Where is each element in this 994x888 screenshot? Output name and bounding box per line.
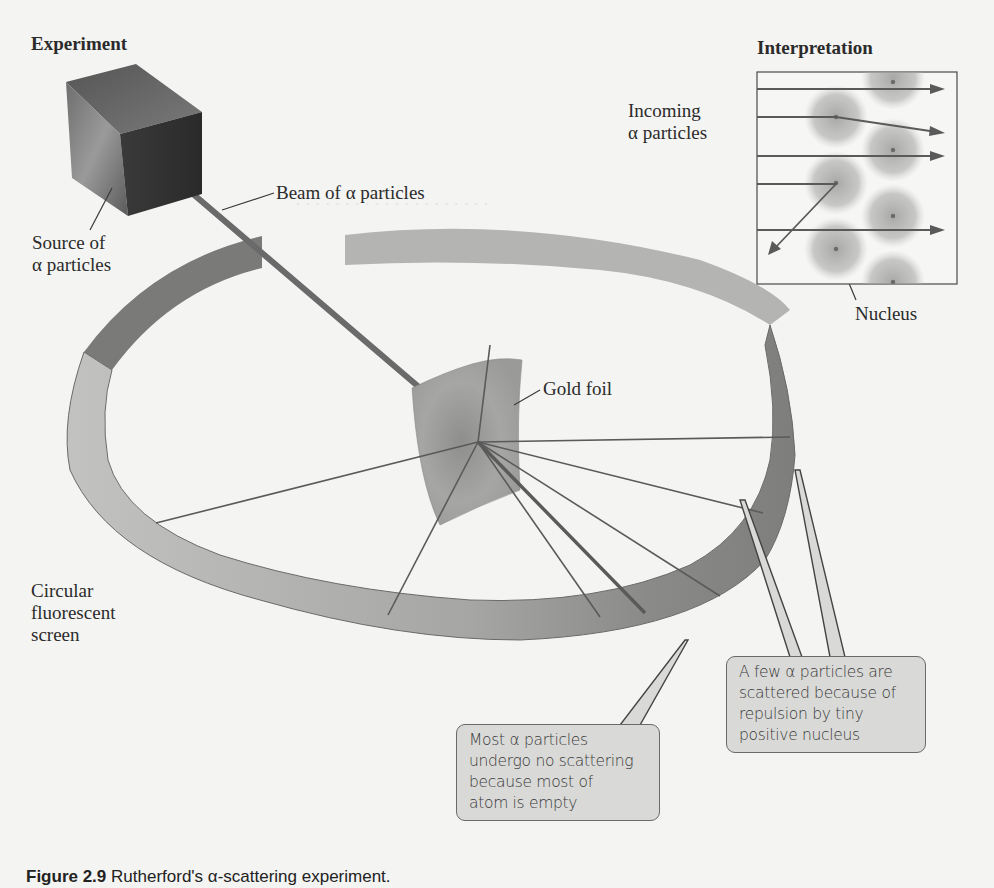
figure-caption-text: Rutherford's α-scattering experiment. <box>111 867 391 886</box>
callout-no-scattering: Most α particles undergo no scattering b… <box>456 724 660 821</box>
screen-label: Circular fluorescent screen <box>31 580 115 646</box>
scintillation-spot <box>360 657 372 669</box>
callout-pointer-scattered-a <box>795 470 845 657</box>
scintillation-spot <box>737 602 751 616</box>
source-label: Source of α particles <box>32 232 111 276</box>
gold-foil-label: Gold foil <box>543 378 612 400</box>
figure-number: Figure 2.9 <box>26 867 106 886</box>
figure-caption: Figure 2.9 Rutherford's α-scattering exp… <box>26 866 391 888</box>
interpretation-inset <box>757 46 957 314</box>
alpha-source-cube <box>66 64 202 216</box>
interpretation-heading: Interpretation <box>757 37 873 59</box>
incoming-particles-label: Incoming α particles <box>628 100 707 144</box>
experiment-heading: Experiment <box>31 33 127 55</box>
beam-label: Beam of α particles <box>276 182 425 204</box>
callout-pointer-noscatter <box>620 640 688 725</box>
screen-back-right <box>345 229 790 325</box>
callout-scattered: A few α particles are scattered because … <box>726 656 926 753</box>
nucleus-label: Nucleus <box>855 303 917 325</box>
